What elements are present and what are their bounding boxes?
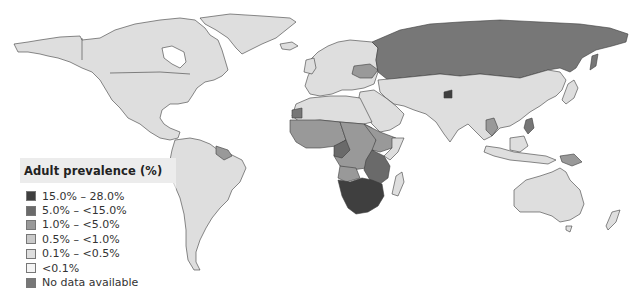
legend-item-0.5-1: 0.5% – <1.0% (26, 232, 172, 246)
legend-items: 15.0% – 28.0% 5.0% – <15.0% 1.0% – <5.0%… (20, 183, 176, 292)
region-western-sahara (292, 108, 302, 118)
legend-item-5-15: 5.0% – <15.0% (26, 203, 172, 217)
swatch-0.1-0.5 (26, 249, 36, 259)
legend-item-0.1-0.5: 0.1% – <0.5% (26, 247, 172, 261)
swatch-lt-0.1 (26, 263, 36, 273)
legend-item-no-data: No data available (26, 275, 172, 289)
region-north-america (14, 18, 228, 140)
legend-label: 15.0% – 28.0% (42, 190, 124, 203)
legend-item-lt-0.1: <0.1% (26, 261, 172, 275)
region-south-america (168, 138, 246, 270)
region-borneo (510, 136, 528, 152)
swatch-no-data (26, 278, 36, 288)
legend-label: 0.5% – <1.0% (42, 233, 120, 246)
swatch-1-5 (26, 220, 36, 230)
region-asia (378, 70, 566, 142)
region-west-africa (290, 120, 346, 148)
legend-label: No data available (42, 276, 138, 289)
legend: Adult prevalence (%) 15.0% – 28.0% 5.0% … (20, 158, 176, 292)
legend-title: Adult prevalence (%) (20, 158, 176, 183)
region-madagascar (392, 172, 404, 196)
region-russia (372, 20, 628, 80)
legend-item-1-5: 1.0% – <5.0% (26, 218, 172, 232)
region-tasmania (566, 226, 572, 232)
legend-label: 0.1% – <0.5% (42, 247, 120, 260)
region-new-zealand (606, 210, 620, 230)
swatch-15-28 (26, 191, 36, 201)
legend-label: 1.0% – <5.0% (42, 218, 120, 231)
legend-item-15-28: 15.0% – 28.0% (26, 189, 172, 203)
legend-label: <0.1% (42, 262, 79, 275)
legend-label: 5.0% – <15.0% (42, 204, 127, 217)
swatch-0.5-1 (26, 234, 36, 244)
region-papua-new-guinea (560, 154, 582, 166)
region-iceland (280, 42, 298, 50)
region-southern-africa (338, 178, 384, 214)
region-sakhalin (590, 54, 598, 70)
swatch-5-15 (26, 206, 36, 216)
region-australia (514, 168, 584, 222)
region-philippines (524, 118, 534, 134)
